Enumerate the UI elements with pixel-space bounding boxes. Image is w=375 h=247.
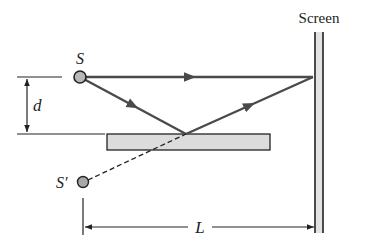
separation-label: d	[33, 96, 42, 115]
reflected-ray	[186, 77, 313, 134]
image-source-label: S′	[56, 174, 68, 191]
screen	[315, 32, 323, 233]
mirror	[107, 134, 270, 150]
screen-label: Screen	[299, 10, 340, 26]
distance-label: L	[194, 218, 204, 237]
source-point	[74, 71, 86, 83]
separation-dimension	[17, 77, 105, 134]
image-source-point	[78, 177, 89, 188]
incident-ray	[80, 77, 186, 134]
lloyds-mirror-diagram: Screen d S S′ L	[0, 0, 375, 247]
source-label: S	[76, 50, 84, 67]
